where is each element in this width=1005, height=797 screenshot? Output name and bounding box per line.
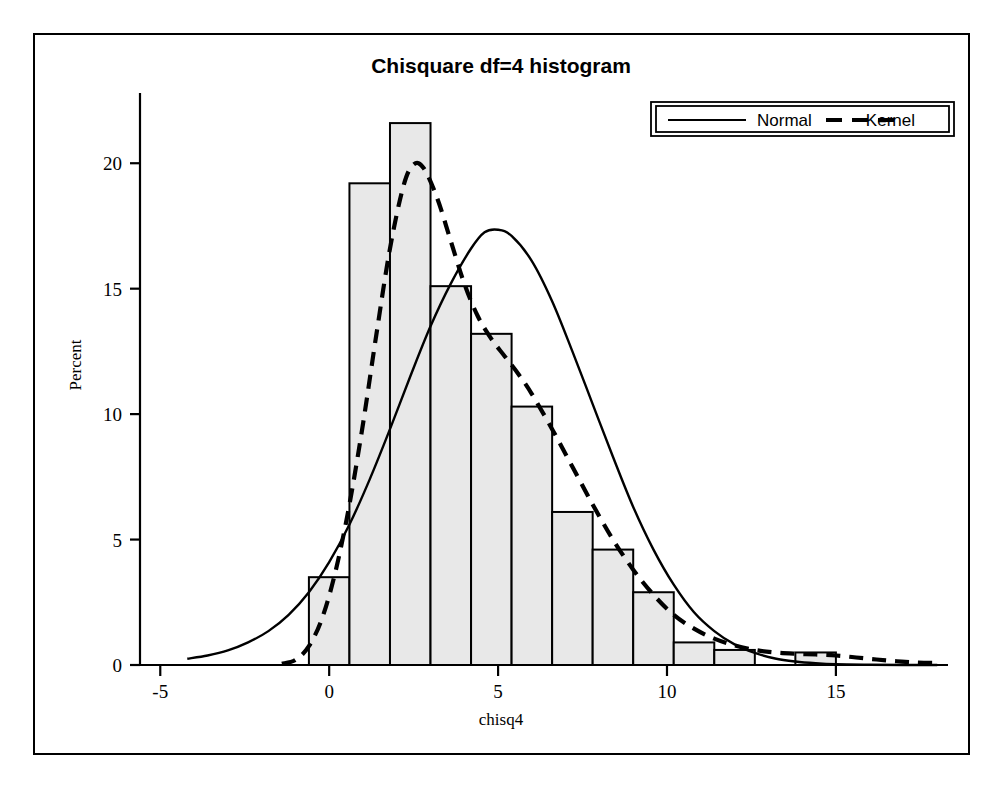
legend-label-kernel: Kernel bbox=[866, 111, 915, 130]
x-tick-label: 15 bbox=[826, 681, 845, 702]
y-tick-label: 15 bbox=[103, 279, 122, 300]
histogram-bars bbox=[309, 123, 836, 665]
y-tick-label: 20 bbox=[103, 153, 122, 174]
histogram-bar bbox=[431, 286, 472, 665]
x-tick-label: 5 bbox=[493, 681, 503, 702]
x-axis-title: chisq4 bbox=[479, 710, 524, 729]
histogram-bar bbox=[471, 334, 512, 665]
y-tick-label: 10 bbox=[103, 404, 122, 425]
histogram-bar bbox=[714, 650, 755, 665]
histogram-bar bbox=[552, 512, 593, 665]
y-tick-label: 5 bbox=[113, 530, 123, 551]
y-axis-title: Percent bbox=[66, 339, 85, 390]
histogram-bar bbox=[349, 183, 390, 665]
histogram-bar bbox=[390, 123, 431, 665]
chart-outer-frame: Chisquare df=4 histogram 05101520-505101… bbox=[33, 33, 970, 755]
histogram-bar bbox=[633, 592, 674, 665]
x-tick-label: 0 bbox=[324, 681, 334, 702]
histogram-bar bbox=[512, 407, 553, 665]
histogram-chart: Chisquare df=4 histogram 05101520-505101… bbox=[35, 35, 968, 753]
chart-page: Chisquare df=4 histogram 05101520-505101… bbox=[0, 0, 1005, 797]
x-tick-label: 10 bbox=[657, 681, 676, 702]
histogram-bar bbox=[593, 550, 634, 665]
chart-title: Chisquare df=4 histogram bbox=[371, 54, 631, 77]
y-tick-label: 0 bbox=[113, 655, 123, 676]
chart-legend: Normal Kernel bbox=[651, 102, 954, 136]
legend-label-normal: Normal bbox=[757, 111, 812, 130]
x-tick-label: -5 bbox=[152, 681, 168, 702]
histogram-bar bbox=[674, 642, 715, 665]
